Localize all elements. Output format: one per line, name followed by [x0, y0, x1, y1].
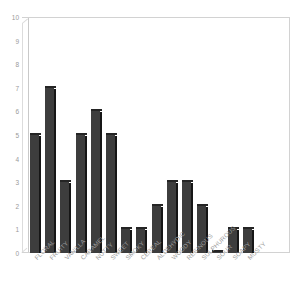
- x-tick-label-wrap: WOODY: [170, 256, 171, 257]
- bar-side-face: [100, 112, 102, 253]
- x-tick-label-wrap: MUSTY: [246, 256, 247, 257]
- bar-top-face: [167, 180, 178, 182]
- y-tick-label: 1: [3, 226, 19, 233]
- bar: [120, 17, 135, 253]
- y-tick-label: 3: [3, 179, 19, 186]
- x-tick-label-wrap: NUTTY: [94, 256, 95, 257]
- x-tick-label-wrap: RESINOUS: [185, 256, 186, 257]
- bar-side-face: [69, 183, 71, 253]
- y-tick-label: 9: [3, 37, 19, 44]
- bar: [211, 17, 226, 253]
- bar: [135, 17, 150, 253]
- bar: [166, 17, 181, 253]
- y-tick-label: 0: [3, 250, 19, 257]
- y-tick-label: 10: [3, 14, 19, 21]
- bar-top-face: [121, 227, 132, 229]
- x-tick-label-wrap: CARAMEL: [79, 256, 80, 257]
- bar-top-face: [30, 133, 41, 135]
- bar: [242, 17, 257, 253]
- bar-top-face: [45, 86, 56, 88]
- x-tick-label-wrap: SMOKY: [124, 256, 125, 257]
- bar-front-face: [106, 135, 115, 253]
- bar-side-face: [161, 207, 163, 253]
- x-tick-label-wrap: ALDEHYDIC: [155, 256, 156, 257]
- bar-top-face: [60, 180, 71, 182]
- chart-title: [0, 0, 299, 1]
- bar: [59, 17, 74, 253]
- x-tick-label-wrap: SULPHUROUS: [200, 256, 201, 257]
- x-tick-label-wrap: SOUR: [215, 256, 216, 257]
- bar: [29, 17, 44, 253]
- x-tick-label-wrap: SOAPY: [231, 256, 232, 257]
- bar-top-face: [76, 133, 87, 135]
- y-axis: 012345678910: [0, 17, 19, 253]
- x-axis-labels: FLORALFRUITYVANILLACARAMELNUTTYSWEETSMOK…: [29, 256, 290, 305]
- bar: [90, 17, 105, 253]
- bars-layer: [29, 17, 290, 253]
- y-tick-label: 4: [3, 155, 19, 162]
- x-tick-label-wrap: VANILLA: [63, 256, 64, 257]
- bar-side-face: [39, 136, 41, 253]
- bar: [151, 17, 166, 253]
- x-tick-label-wrap: CEREAL: [139, 256, 140, 257]
- bar-top-face: [91, 109, 102, 111]
- y-tick-label: 5: [3, 132, 19, 139]
- y-tick-label: 6: [3, 108, 19, 115]
- bar-front-face: [30, 135, 39, 253]
- bar: [75, 17, 90, 253]
- bar: [181, 17, 196, 253]
- bar-front-face: [76, 135, 85, 253]
- x-tick-label-wrap: SWEET: [109, 256, 110, 257]
- bar: [44, 17, 59, 253]
- bar-side-face: [115, 136, 117, 253]
- bar-top-face: [197, 204, 208, 206]
- y-tick-label: 8: [3, 61, 19, 68]
- bar: [227, 17, 242, 253]
- y-tick-label: 7: [3, 84, 19, 91]
- bar: [105, 17, 120, 253]
- bar-top-face: [152, 204, 163, 206]
- bar-side-face: [85, 136, 87, 253]
- bar-side-face: [54, 89, 56, 253]
- y-tick-label: 2: [3, 202, 19, 209]
- bar-top-face: [136, 227, 147, 229]
- bar: [196, 17, 211, 253]
- x-tick-label-wrap: FRUITY: [48, 256, 49, 257]
- bar-top-face: [243, 227, 254, 229]
- bar-top-face: [106, 133, 117, 135]
- bar-side-face: [206, 207, 208, 253]
- bar-top-face: [182, 180, 193, 182]
- bar-front-face: [91, 111, 100, 253]
- bar-chart: 012345678910 FLORALFRUITYVANILLACARAMELN…: [0, 0, 299, 305]
- bar-front-face: [45, 88, 54, 253]
- x-tick-label-wrap: FLORAL: [33, 256, 34, 257]
